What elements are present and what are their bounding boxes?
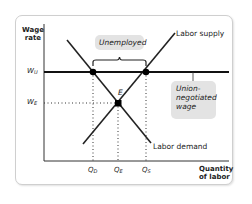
labor-demand-curve [67, 40, 151, 143]
tick-we: WE [27, 98, 37, 106]
point-qs-wu [143, 69, 150, 76]
y-axis-label: Wage rate [22, 26, 44, 42]
point-qd-wu [90, 69, 97, 76]
unemployed-note: Unemployed [95, 35, 144, 50]
tick-qd: QD [88, 166, 97, 174]
tick-qs: QS [142, 166, 151, 174]
tick-wu: WU [27, 67, 38, 75]
labor-supply-label: Labor supply [176, 30, 224, 38]
unemployed-brace [93, 57, 146, 66]
tick-qe: QE [114, 166, 123, 174]
labor-demand-label: Labor demand [153, 143, 207, 151]
equilibrium-label: E [118, 89, 123, 97]
x-axis-label: Quantity of labor [199, 165, 229, 181]
equilibrium-point [115, 100, 122, 107]
union-wage-note: Union- negotiated wage [171, 81, 216, 119]
